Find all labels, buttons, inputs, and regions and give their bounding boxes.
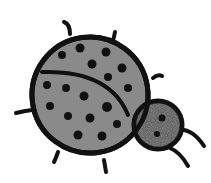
eye: [159, 115, 166, 122]
ladybug-illustration: [0, 0, 211, 183]
shell: [24, 29, 155, 160]
eye: [154, 131, 160, 137]
